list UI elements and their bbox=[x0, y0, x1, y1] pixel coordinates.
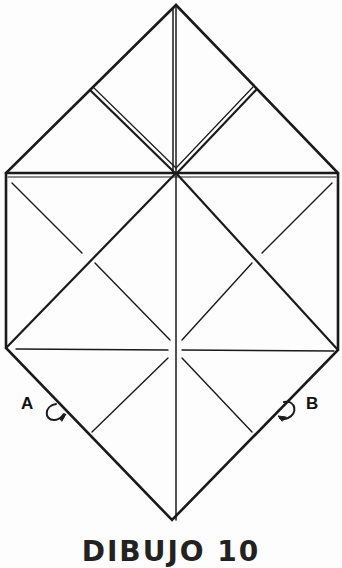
mid-crease-right bbox=[182, 350, 334, 351]
figure-caption: DIBUJO 10 bbox=[0, 535, 342, 568]
diag-left bbox=[6, 173, 176, 348]
label-a: A bbox=[21, 394, 33, 414]
outline bbox=[6, 5, 338, 520]
label-b: B bbox=[306, 394, 318, 414]
diag-right bbox=[176, 173, 338, 350]
right-flap-edge bbox=[178, 90, 256, 172]
left-flap-edge bbox=[90, 90, 174, 172]
mid-crease-left bbox=[16, 349, 168, 350]
